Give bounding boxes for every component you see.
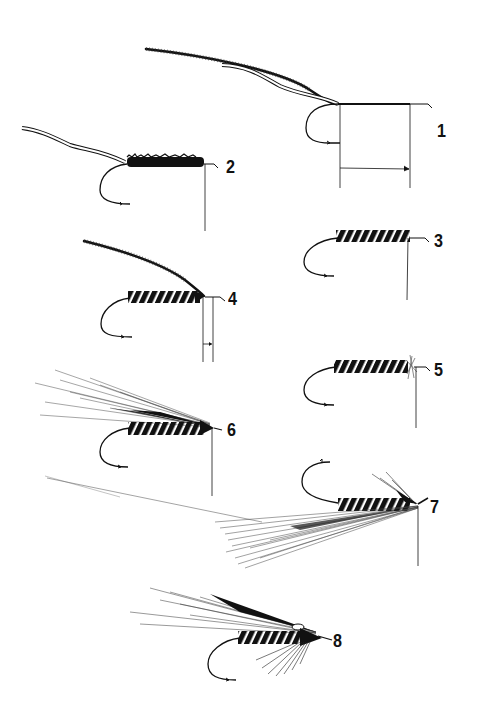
step-label-6: 6 bbox=[227, 420, 236, 439]
step-label-7: 7 bbox=[430, 497, 439, 516]
step-8-figure bbox=[130, 588, 332, 681]
step-5-figure bbox=[304, 355, 430, 428]
step-label-2: 2 bbox=[226, 157, 235, 176]
step-7-figure bbox=[47, 459, 428, 568]
step-6-figure bbox=[35, 370, 222, 497]
fly-tying-diagram: 1 2 3 4 5 6 7 8 bbox=[0, 0, 479, 710]
step-label-1: 1 bbox=[437, 121, 446, 140]
step-2-figure bbox=[22, 128, 218, 231]
step-3-figure bbox=[304, 230, 429, 300]
step-4-figure bbox=[84, 241, 225, 362]
step-label-4: 4 bbox=[228, 289, 237, 308]
step-label-5: 5 bbox=[434, 360, 443, 379]
step-label-3: 3 bbox=[434, 231, 443, 250]
step-label-8: 8 bbox=[333, 631, 342, 650]
step-1-figure bbox=[146, 49, 432, 188]
diagram-canvas bbox=[0, 0, 479, 710]
